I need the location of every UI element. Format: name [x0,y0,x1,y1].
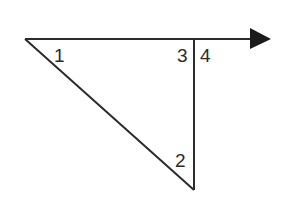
angle-label-2: 2 [175,150,186,171]
angle-label-4: 4 [200,45,211,66]
diagram-canvas: 1 2 3 4 [0,0,284,209]
angle-label-1: 1 [54,45,65,66]
triangle-diagram: 1 2 3 4 [0,0,284,209]
hypotenuse-line [25,39,194,190]
arrowhead-icon [250,28,271,49]
angle-label-3: 3 [177,45,188,66]
